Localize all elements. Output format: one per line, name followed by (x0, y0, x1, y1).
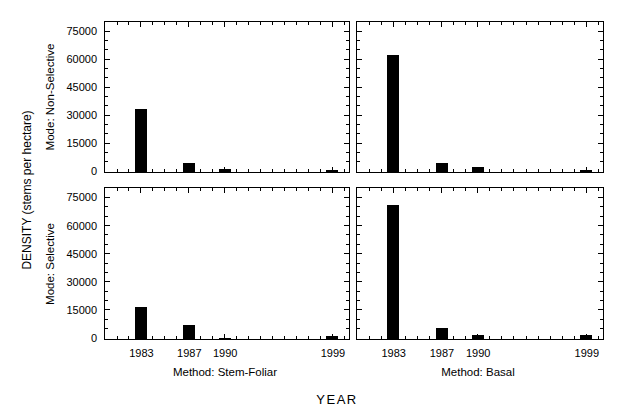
x-tick (538, 188, 539, 191)
x-tick (272, 169, 273, 172)
y-tick (105, 300, 108, 301)
x-tick (453, 336, 454, 339)
x-tick (465, 169, 466, 172)
x-tick (598, 169, 599, 172)
x-tick (381, 169, 382, 172)
y-tick-label: 75000 (51, 25, 97, 38)
x-tick (489, 22, 490, 25)
x-tick (550, 169, 551, 172)
x-tick (284, 188, 285, 191)
y-tick-label: 0 (51, 165, 97, 178)
x-tick (477, 22, 478, 27)
y-tick (600, 216, 603, 217)
y-tick (344, 87, 349, 88)
y-tick (346, 77, 349, 78)
x-tick (344, 188, 345, 191)
y-tick (357, 225, 362, 226)
bar-1983 (135, 307, 147, 339)
y-tick-label: 60000 (51, 53, 97, 66)
x-tick (164, 336, 165, 339)
x-tick (152, 188, 153, 191)
bar-1983 (387, 205, 399, 339)
bar-1990 (219, 338, 231, 339)
x-tick (513, 169, 514, 172)
bar-1983 (135, 109, 147, 172)
x-tick (429, 336, 430, 339)
x-tick (417, 22, 418, 25)
x-tick (236, 169, 237, 172)
y-tick (600, 319, 603, 320)
x-tick (574, 188, 575, 191)
y-tick (357, 244, 360, 245)
x-tick (501, 336, 502, 339)
x-tick (332, 22, 333, 27)
y-tick (600, 133, 603, 134)
y-tick (598, 281, 603, 282)
y-tick (600, 96, 603, 97)
x-tick (260, 188, 261, 191)
x-tick (296, 22, 297, 25)
x-tick (405, 336, 406, 339)
y-tick (600, 40, 603, 41)
x-tick (429, 169, 430, 172)
y-tick (105, 253, 110, 254)
x-tick (176, 336, 177, 339)
y-tick (344, 309, 349, 310)
y-tick (105, 133, 108, 134)
x-tick (272, 22, 273, 25)
y-tick (600, 68, 603, 69)
x-tick (224, 22, 225, 27)
x-tick (465, 22, 466, 25)
y-tick (357, 291, 360, 292)
x-tick (332, 188, 333, 193)
y-tick (357, 49, 360, 50)
y-tick (357, 152, 360, 153)
bar-1987 (436, 328, 448, 339)
x-tick (381, 336, 382, 339)
x-tick (308, 336, 309, 339)
y-tick (105, 244, 108, 245)
y-tick (344, 115, 349, 116)
x-tick (308, 188, 309, 191)
x-tick (405, 169, 406, 172)
x-tick (344, 22, 345, 25)
x-tick (117, 22, 118, 25)
x-tick (212, 169, 213, 172)
y-tick (105, 291, 108, 292)
y-tick (344, 59, 349, 60)
x-tick (272, 336, 273, 339)
col-label-basal: Method: Basal (441, 366, 515, 378)
x-tick (429, 188, 430, 191)
x-tick (393, 188, 394, 193)
y-tick (346, 328, 349, 329)
x-tick (176, 169, 177, 172)
bar-1983 (387, 55, 399, 172)
x-tick (417, 336, 418, 339)
x-tick (441, 188, 442, 193)
y-tick (357, 124, 360, 125)
x-tick (260, 169, 261, 172)
y-tick (600, 152, 603, 153)
y-tick (346, 244, 349, 245)
y-tick (105, 328, 108, 329)
x-tick (513, 188, 514, 191)
y-tick (105, 31, 110, 32)
y-tick (357, 263, 360, 264)
y-tick (357, 68, 360, 69)
bar-1987 (436, 163, 448, 172)
y-axis-title: DENSITY (stems per hectare) (20, 110, 34, 269)
x-tick (369, 336, 370, 339)
y-tick (105, 281, 110, 282)
x-tick (586, 22, 587, 27)
y-tick (105, 124, 108, 125)
x-tick (417, 188, 418, 191)
x-tick (212, 336, 213, 339)
y-tick (600, 77, 603, 78)
row-label-selective: Mode: Selective (44, 223, 56, 305)
x-tick (381, 22, 382, 25)
y-tick (346, 152, 349, 153)
y-tick (105, 272, 108, 273)
y-tick (598, 225, 603, 226)
x-tick (308, 169, 309, 172)
x-tick (128, 336, 129, 339)
